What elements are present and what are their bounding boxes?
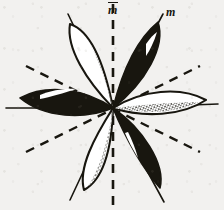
label-m-vertical-text: m xyxy=(108,3,117,17)
petal-lower-right xyxy=(113,108,161,188)
label-m-mirror-vertical: m xyxy=(108,2,118,16)
center-point xyxy=(111,106,115,110)
label-m-mirror-diagonal: m xyxy=(166,6,175,18)
rosette-diagram xyxy=(0,0,224,210)
symmetry-rosette-figure: m m xyxy=(0,0,224,210)
